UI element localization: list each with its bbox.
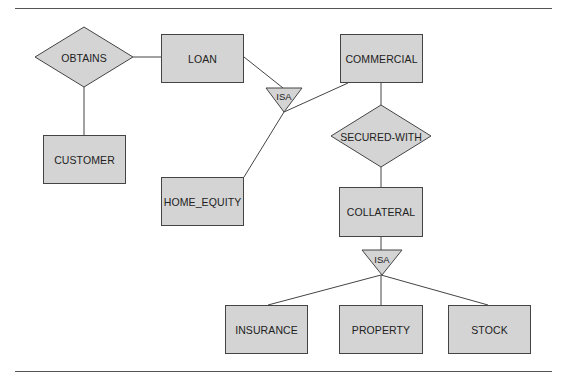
connector-isa-home-equity [244, 112, 284, 177]
connector-isa-stock [381, 275, 488, 305]
entity-customer: CUSTOMER [43, 135, 126, 184]
entity-collateral: COLLATERAL [339, 187, 423, 237]
isa-loan-label: ISA [276, 91, 291, 102]
entity-home-equity: HOME_EQUITY [161, 177, 244, 226]
entity-stock: STOCK [448, 305, 531, 354]
relationship-obtains: OBTAINS [61, 52, 106, 64]
entity-commercial: COMMERCIAL [340, 34, 423, 83]
isa-collateral-label: ISA [374, 254, 389, 265]
connector-isa-insurance [268, 275, 381, 305]
connector-loan-isa [244, 57, 283, 88]
relationship-secured-with: SECURED-WITH [340, 131, 422, 143]
entity-insurance: INSURANCE [225, 305, 308, 354]
entity-property: PROPERTY [339, 305, 423, 354]
entity-loan: LOAN [161, 34, 244, 83]
